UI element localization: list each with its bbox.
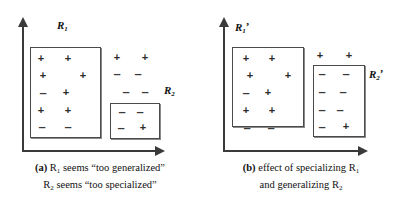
region-label-r2: R2: [164, 85, 175, 98]
mark-plus: +: [61, 87, 71, 98]
mark-minus: –: [121, 85, 131, 98]
mark-plus: +: [315, 50, 325, 61]
mark-minus: –: [133, 67, 143, 80]
caption-b-line2-pre: and generalizing R: [260, 179, 339, 190]
mark-plus: +: [283, 70, 293, 81]
region-label-r2-prime: R2’: [369, 68, 384, 82]
mark-plus: +: [36, 105, 46, 116]
y-axis-arrow-b: [219, 17, 229, 27]
mark-minus: –: [317, 85, 327, 98]
mark-plus: +: [138, 122, 148, 133]
mark-plus: +: [38, 70, 48, 81]
mark-minus: –: [317, 103, 327, 116]
mark-plus: +: [263, 87, 273, 98]
mark-minus: –: [341, 67, 351, 80]
mark-minus: –: [335, 103, 345, 116]
caption-b-line1-sub: 1: [356, 167, 360, 175]
x-axis-arrow-a: [155, 146, 165, 156]
mark-plus: +: [245, 70, 255, 81]
caption-b-tag: (b): [243, 162, 256, 173]
figure-container: R1 R2 + + + + – + + + – – + + – – – – – …: [0, 0, 401, 204]
caption-a-line2-post: seems “too specialized”: [54, 179, 157, 190]
panel-a: R1 R2 + + + + – + + + – – + + – – – – – …: [0, 0, 200, 204]
caption-b-line1-pre: effect of specializing R: [258, 162, 355, 173]
mark-minus: –: [338, 85, 348, 98]
x-axis-line-b: [223, 150, 359, 152]
mark-plus: +: [344, 50, 354, 61]
mark-plus: +: [36, 53, 46, 64]
caption-a-line1-pre: R: [50, 162, 57, 173]
mark-plus: +: [63, 105, 73, 116]
mark-plus: +: [241, 53, 251, 64]
mark-plus: +: [267, 53, 277, 64]
region-label-r1-prime: R1’: [235, 21, 250, 35]
mark-plus: +: [140, 52, 150, 63]
caption-a-tag: (a): [35, 162, 47, 173]
mark-plus: +: [63, 53, 73, 64]
mark-minus: –: [135, 105, 145, 118]
mark-minus: –: [140, 85, 150, 98]
mark-minus: –: [317, 67, 327, 80]
caption-a: (a) R1 seems “too generalized” R2 seems …: [0, 161, 200, 195]
mark-plus: +: [341, 121, 351, 132]
mark-minus: –: [63, 120, 73, 133]
mark-minus: –: [242, 121, 252, 134]
mark-minus: –: [112, 67, 122, 80]
mark-plus: +: [241, 105, 251, 116]
caption-b: (b) effect of specializing R1 and genera…: [201, 161, 401, 195]
panel-b: R1’ R2’ + + + + – + + + – – + + – – – – …: [201, 0, 401, 204]
mark-minus: –: [37, 120, 47, 133]
y-axis-line-b: [223, 26, 225, 152]
mark-minus: –: [38, 86, 48, 99]
y-axis-arrow-a: [18, 17, 28, 27]
mark-minus: –: [116, 121, 126, 134]
mark-plus: +: [112, 52, 122, 63]
mark-minus: –: [317, 120, 327, 133]
mark-plus: +: [267, 105, 277, 116]
y-axis-line-a: [22, 26, 24, 152]
x-axis-arrow-b: [358, 146, 368, 156]
mark-minus: –: [117, 105, 127, 118]
caption-a-line1-post: seems “too generalized”: [60, 162, 165, 173]
mark-minus: –: [266, 121, 276, 134]
mark-plus: +: [78, 70, 88, 81]
mark-minus: –: [241, 86, 251, 99]
region-label-r1: R1: [57, 20, 68, 33]
x-axis-line-a: [22, 150, 156, 152]
caption-b-line2-sub: 2: [339, 184, 343, 192]
